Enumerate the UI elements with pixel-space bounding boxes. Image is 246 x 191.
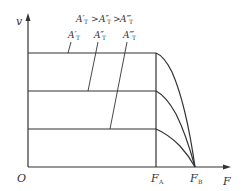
y-axis-label: v: [16, 15, 23, 28]
relation-c-sub: T: [129, 18, 133, 25]
relation-b-sub: T: [107, 18, 111, 25]
curve-label-1-sub: T: [76, 34, 80, 41]
axes: [28, 18, 226, 167]
curve-label-3: A‴ T: [122, 30, 136, 41]
relation-a-sub: T: [84, 18, 88, 25]
curve-label-3-sub: T: [132, 34, 136, 41]
falloff-curve-1: [156, 53, 195, 167]
x-axis-arrow-icon: [223, 165, 231, 170]
curves: [28, 42, 195, 167]
leader-line-2: [88, 42, 98, 91]
x-tick-fa-sub: A: [158, 178, 164, 185]
curve-label-2: A″ T: [93, 30, 106, 41]
relation-label: A′ T > A″ T > A‴ T: [75, 14, 133, 25]
origin-label: O: [17, 172, 26, 185]
leader-line-3: [110, 42, 127, 129]
relation-gt-1: >: [91, 14, 99, 24]
x-tick-fb: F B: [189, 172, 203, 185]
x-tick-fa: F A: [150, 172, 164, 185]
curve-label-1: A′ T: [67, 30, 80, 41]
y-axis-arrow-icon: [26, 13, 31, 21]
x-tick-fb-main: F: [189, 172, 198, 185]
x-axis-label: F: [222, 175, 231, 188]
curve-label-2-sub: T: [102, 34, 106, 41]
velocity-force-diagram: v F O F A F B A′ T > A″ T > A‴ T A′ T A″…: [0, 0, 246, 191]
x-tick-fa-main: F: [150, 172, 159, 185]
leader-line-1: [68, 42, 71, 53]
x-tick-fb-sub: B: [198, 178, 203, 185]
